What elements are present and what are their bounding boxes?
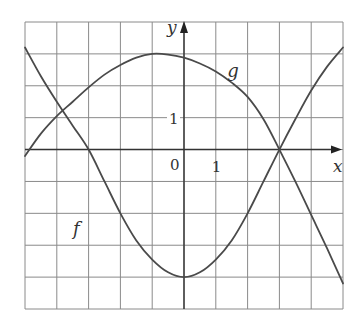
origin-label: 0 xyxy=(170,156,180,174)
curve-label-g: g xyxy=(227,60,239,81)
y-tick-label-1: 1 xyxy=(169,110,179,128)
axes xyxy=(25,21,342,309)
x-axis-label: x xyxy=(333,156,343,176)
x-tick-label-1: 1 xyxy=(212,158,222,176)
x-axis-arrow-icon xyxy=(331,146,342,154)
y-axis-arrow-icon xyxy=(180,21,188,33)
curve-label-f: f xyxy=(71,218,83,239)
labels: x y 0 1 1 f g xyxy=(71,17,343,239)
y-axis-label: y xyxy=(166,17,177,37)
function-graph: x y 0 1 1 f g xyxy=(0,0,362,327)
